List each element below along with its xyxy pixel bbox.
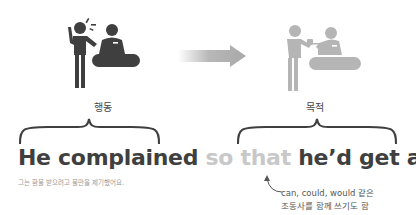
person-receiving-refund-at-counter-icon (283, 15, 363, 93)
gradient-right-arrow-icon (178, 45, 248, 67)
example-sentence: He complained so that he’d get a refund. (18, 145, 416, 170)
korean-translation: 그는 환불 받으려고 불만을 제기했어요. (18, 177, 124, 187)
so-that-diagram: 행동 (0, 0, 416, 215)
purpose-clause: he’d get a refund. (298, 145, 416, 170)
action-label: 행동 (73, 99, 133, 114)
purpose-label: 목적 (285, 99, 345, 114)
note-line-1: can, could, would 같은 (281, 187, 374, 200)
note-line-2: 조동사를 함께 쓰기도 함 (281, 200, 374, 213)
person-complaining-at-counter-icon (62, 12, 144, 92)
so-that-connector: so that (198, 145, 298, 170)
modal-verb-note: can, could, would 같은 조동사를 함께 쓰기도 함 (281, 187, 374, 213)
action-clause: He complained (18, 145, 198, 170)
